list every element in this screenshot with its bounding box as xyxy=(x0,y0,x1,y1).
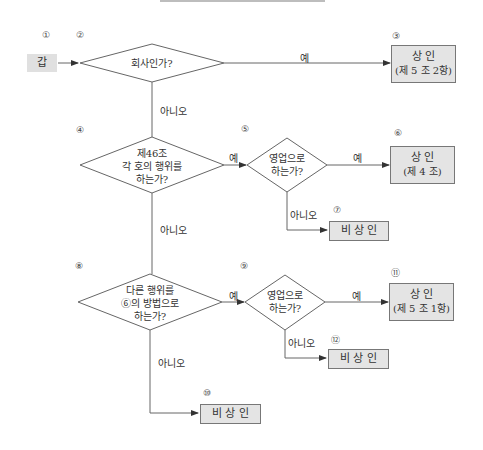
result-title: 상 인 xyxy=(391,151,454,165)
result-article: (제 4 조) xyxy=(391,165,454,179)
step-number-11: ⑪ xyxy=(391,266,400,279)
result-title: 상 인 xyxy=(390,288,453,302)
result-non-merchant: 비 상 인 xyxy=(329,221,389,241)
result-title: 비 상 인 xyxy=(340,352,377,365)
step-number-8: ⑧ xyxy=(75,261,83,271)
decision-text: 회사인가? xyxy=(131,58,172,69)
edge-label-no: 아니오 xyxy=(290,207,317,222)
edge-label-yes: 예 xyxy=(229,150,238,165)
decision-text-line1: 다른 행위를 xyxy=(121,284,179,297)
start-node: 갑 xyxy=(27,54,57,72)
result-non-merchant: 비 상 인 xyxy=(200,404,261,424)
decision-text-line2: 하는가? xyxy=(269,165,305,178)
decision-text-line1: 영업으로 xyxy=(267,289,303,302)
result-article: (제 5 조 1항) xyxy=(390,302,453,316)
edge-label-no: 아니오 xyxy=(288,335,315,350)
step-number-3: ③ xyxy=(392,31,400,41)
edge-label-no: 아니오 xyxy=(160,222,187,237)
decision-is-company: 회사인가? xyxy=(131,57,172,70)
decision-text-line1: 제46조 xyxy=(122,147,182,160)
result-non-merchant: 비 상 인 xyxy=(328,349,389,369)
result-merchant-art4: 상 인 (제 4 조) xyxy=(390,146,455,184)
start-label: 갑 xyxy=(37,56,47,69)
result-article: (제 5 조 2항) xyxy=(392,64,455,78)
edge-label-yes: 예 xyxy=(300,50,309,65)
decision-art46-acts: 제46조 각 호의 행위를 하는가? xyxy=(122,147,182,186)
step-number-7: ⑦ xyxy=(333,205,341,215)
decision-as-business-2: 영업으로 하는가? xyxy=(267,289,303,315)
result-title: 비 상 인 xyxy=(212,407,249,420)
result-title: 비 상 인 xyxy=(341,224,378,237)
decision-text-line3: 하는가? xyxy=(121,310,179,323)
decision-text-line2: 하는가? xyxy=(267,302,303,315)
step-number-6: ⑥ xyxy=(394,128,402,138)
result-title: 상 인 xyxy=(392,50,455,64)
step-number-2: ② xyxy=(76,30,84,40)
edge-label-yes: 예 xyxy=(353,150,362,165)
step-number-9: ⑨ xyxy=(240,261,248,271)
decision-as-business: 영업으로 하는가? xyxy=(269,152,305,178)
step-number-1: ① xyxy=(42,30,50,40)
edge-label-yes: 예 xyxy=(352,288,361,303)
edge-label-no: 아니오 xyxy=(160,103,187,118)
decision-other-acts: 다른 행위를 ⑥의 방법으로 하는가? xyxy=(121,284,179,323)
result-merchant-art5-1: 상 인 (제 5 조 1항) xyxy=(389,283,454,321)
decision-text-line1: 영업으로 xyxy=(269,152,305,165)
step-number-4: ④ xyxy=(76,125,84,135)
edge-label-yes: 예 xyxy=(229,288,238,303)
result-merchant-art5-2: 상 인 (제 5 조 2항) xyxy=(391,45,456,83)
decision-text-line2: ⑥의 방법으로 xyxy=(121,297,179,310)
step-number-10: ⑩ xyxy=(203,388,211,398)
step-number-5: ⑤ xyxy=(241,124,249,134)
decision-text-line3: 하는가? xyxy=(122,173,182,186)
decision-text-line2: 각 호의 행위를 xyxy=(122,160,182,173)
edge-label-no: 아니오 xyxy=(158,355,185,370)
step-number-12: ⑫ xyxy=(331,333,340,346)
